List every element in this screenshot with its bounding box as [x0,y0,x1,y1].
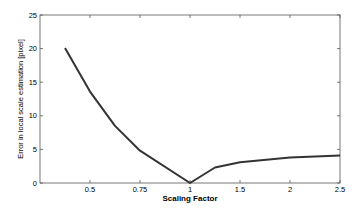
y-tick-label: 25 [29,11,37,20]
x-tick-label: 0.5 [85,185,95,194]
x-tick-label: 1 [188,185,192,194]
y-axis-label: Error in local scale estimation [pixel] [16,39,25,159]
y-tick-label: 20 [29,44,37,53]
x-tick-label: 2.5 [335,185,345,194]
x-tick-label: 2 [288,185,292,194]
y-tick-label: 5 [33,145,37,154]
x-tick-label: 1.5 [235,185,245,194]
y-tick-label: 0 [33,179,37,188]
line-chart: 0.50.7511.522.5 0510152025 Scaling Facto… [0,0,360,208]
chart-canvas: 0.50.7511.522.5 0510152025 Scaling Facto… [0,0,360,208]
x-tick-label: 0.75 [133,185,148,194]
y-tick-label: 10 [29,111,37,120]
x-axis-label: Scaling Factor [162,194,217,203]
y-tick-label: 15 [29,78,37,87]
